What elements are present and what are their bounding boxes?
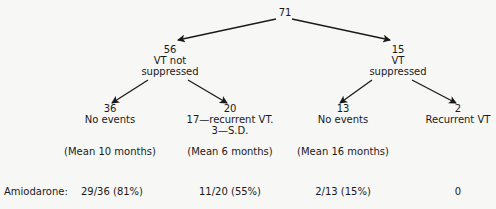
arrow-15-to-13 [340,80,372,103]
node-count: 15 [368,44,428,55]
amiodarone-value: 11/20 (55%) [190,186,270,197]
leaf-label: 17—recurrent VT. [180,114,280,125]
node-label-line2: suppressed [135,66,205,77]
node-count: 56 [140,44,200,55]
leaf-count: 13 [313,103,373,114]
leaf-label: No events [303,114,383,125]
arrow-root-to-suppressed [292,19,390,40]
leaf-count: 2 [428,103,488,114]
arrow-15-to-2 [412,80,456,103]
arrow-56-to-20 [188,80,227,103]
leaf-label: No events [70,114,150,125]
leaf-mean: (Mean 10 months) [60,146,160,157]
leaf-count: 36 [80,103,140,114]
leaf-label: Recurrent VT [413,114,496,125]
amiodarone-label: Amiodarone: [4,186,74,197]
node-label-line1: VT not [140,55,200,66]
leaf-mean: (Mean 6 months) [180,146,280,157]
arrow-56-to-36 [112,80,148,103]
leaf-mean: (Mean 16 months) [288,146,398,157]
root-count: 71 [270,7,300,18]
amiodarone-value: 2/13 (15%) [303,186,383,197]
node-label-line2: suppressed [363,66,433,77]
leaf-label-line2: 3—S.D. [200,125,260,136]
amiodarone-value: 29/36 (81%) [72,186,152,197]
leaf-count: 20 [200,103,260,114]
node-label-line1: VT [368,55,428,66]
amiodarone-value: 0 [428,186,488,197]
arrow-root-to-not-suppressed [178,19,276,40]
